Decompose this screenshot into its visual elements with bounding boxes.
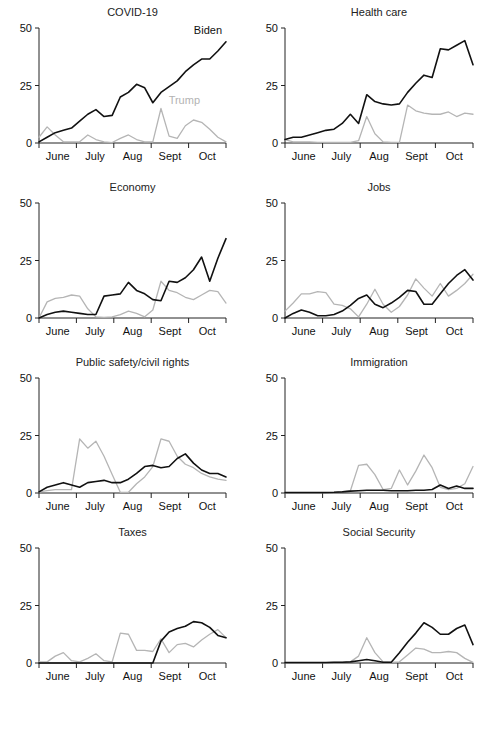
panel-title: Taxes	[118, 526, 147, 538]
x-tick-label: Aug	[369, 150, 389, 162]
y-tick-label: 50	[266, 22, 278, 34]
x-tick-label: July	[332, 670, 352, 682]
y-tick-label: 25	[20, 255, 32, 267]
panel-title: Health care	[351, 6, 407, 18]
y-tick-label: 50	[266, 372, 278, 384]
panel-title: Social Security	[343, 526, 416, 538]
series-line-biden	[285, 41, 473, 140]
x-tick-label: June	[46, 670, 70, 682]
y-tick-label: 50	[266, 542, 278, 554]
x-tick-label: Sept	[159, 670, 182, 682]
series-line-biden	[285, 270, 473, 318]
x-tick-label: Oct	[446, 670, 463, 682]
x-tick-label: Oct	[199, 500, 216, 512]
chart-panel-immigration: Immigration50250JuneJulyAugSeptOct	[246, 350, 493, 520]
y-tick-label: 25	[266, 255, 278, 267]
series-line-trump	[39, 109, 226, 143]
x-tick-label: July	[85, 670, 105, 682]
y-tick-label: 25	[20, 430, 32, 442]
y-tick-label: 0	[272, 487, 278, 499]
x-tick-label: June	[292, 150, 316, 162]
x-tick-label: Sept	[405, 670, 428, 682]
x-tick-label: Sept	[159, 325, 182, 337]
x-tick-label: Sept	[159, 500, 182, 512]
x-tick-label: Oct	[446, 325, 463, 337]
series-line-trump	[285, 105, 473, 142]
x-tick-label: Oct	[199, 670, 216, 682]
x-tick-label: Sept	[159, 150, 182, 162]
chart-panel-public-safety-civil-rights: Public safety/civil rights50250JuneJulyA…	[0, 350, 246, 520]
y-tick-label: 50	[20, 22, 32, 34]
small-multiples-grid: COVID-1950250JuneJulyAugSeptOctBidenTrum…	[0, 0, 493, 740]
x-tick-label: July	[332, 500, 352, 512]
y-tick-label: 50	[20, 542, 32, 554]
panel-title: Public safety/civil rights	[76, 356, 190, 368]
x-tick-label: July	[85, 500, 105, 512]
x-tick-label: Oct	[199, 150, 216, 162]
y-tick-label: 25	[266, 430, 278, 442]
x-tick-label: Aug	[123, 670, 143, 682]
panel-title: Jobs	[367, 181, 391, 193]
y-tick-label: 25	[20, 600, 32, 612]
x-tick-label: Aug	[123, 325, 143, 337]
x-tick-label: July	[332, 325, 352, 337]
x-tick-label: Sept	[405, 325, 428, 337]
x-tick-label: July	[85, 325, 105, 337]
y-tick-label: 25	[266, 80, 278, 92]
x-tick-label: Sept	[405, 500, 428, 512]
y-tick-label: 0	[26, 657, 32, 669]
x-tick-label: June	[292, 670, 316, 682]
chart-panel-social-security: Social Security50250JuneJulyAugSeptOct	[246, 520, 493, 710]
y-tick-label: 25	[266, 600, 278, 612]
x-tick-label: June	[46, 150, 70, 162]
x-tick-label: June	[292, 325, 316, 337]
x-tick-label: Aug	[369, 500, 389, 512]
x-tick-label: July	[85, 150, 105, 162]
chart-panel-health-care: Health care50250JuneJulyAugSeptOct	[246, 0, 493, 175]
annotation-trump: Trump	[169, 94, 200, 106]
chart-panel-covid-19: COVID-1950250JuneJulyAugSeptOctBidenTrum…	[0, 0, 246, 175]
y-tick-label: 0	[272, 657, 278, 669]
panel-title: Immigration	[350, 356, 407, 368]
series-line-trump	[285, 638, 473, 663]
series-line-trump	[39, 630, 226, 662]
series-line-trump	[285, 274, 473, 317]
x-tick-label: Oct	[446, 150, 463, 162]
y-tick-label: 50	[20, 372, 32, 384]
y-tick-label: 0	[272, 137, 278, 149]
x-tick-label: July	[332, 150, 352, 162]
y-tick-label: 50	[20, 197, 32, 209]
y-tick-label: 0	[26, 312, 32, 324]
x-tick-label: June	[292, 500, 316, 512]
series-line-biden	[39, 454, 226, 492]
x-tick-label: Aug	[123, 500, 143, 512]
x-tick-label: Oct	[199, 325, 216, 337]
x-tick-label: June	[46, 325, 70, 337]
y-tick-label: 25	[20, 80, 32, 92]
annotation-biden: Biden	[194, 24, 222, 36]
y-tick-label: 0	[272, 312, 278, 324]
x-tick-label: Aug	[369, 670, 389, 682]
y-tick-label: 0	[26, 487, 32, 499]
panel-title: COVID-19	[107, 6, 158, 18]
chart-panel-taxes: Taxes50250JuneJulyAugSeptOct	[0, 520, 246, 710]
x-tick-label: Sept	[405, 150, 428, 162]
series-line-biden	[39, 239, 226, 318]
x-tick-label: Aug	[123, 150, 143, 162]
x-tick-label: Aug	[369, 325, 389, 337]
panel-title: Economy	[110, 181, 156, 193]
y-tick-label: 0	[26, 137, 32, 149]
y-tick-label: 50	[266, 197, 278, 209]
chart-panel-economy: Economy50250JuneJulyAugSeptOct	[0, 175, 246, 350]
x-tick-label: Oct	[446, 500, 463, 512]
chart-panel-jobs: Jobs50250JuneJulyAugSeptOct	[246, 175, 493, 350]
x-tick-label: June	[46, 500, 70, 512]
series-line-biden	[39, 42, 226, 142]
